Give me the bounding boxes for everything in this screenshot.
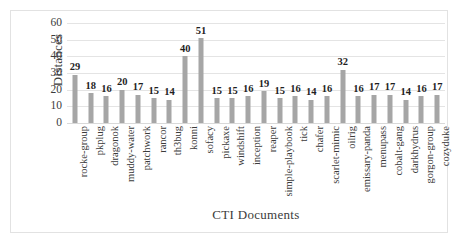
x-label-slot: darkhydrus [398, 124, 414, 204]
bar[interactable] [198, 38, 203, 123]
bar[interactable] [419, 96, 424, 123]
bar-slot: 15 [272, 23, 288, 123]
bar-value-label: 14 [400, 87, 411, 98]
x-label-slot: th3bug [162, 124, 178, 204]
bar-slot: 17 [130, 23, 146, 123]
bar-value-label: 51 [196, 26, 207, 37]
bar[interactable] [183, 56, 188, 123]
bar-value-label: 18 [85, 81, 96, 92]
bars-group: 2918162017151440511515161915161416321617… [67, 23, 445, 123]
x-label-slot: rancor [146, 124, 162, 204]
bar-value-label: 16 [243, 84, 254, 95]
x-label-slot: sofacy [193, 124, 209, 204]
bar-value-label: 16 [101, 84, 112, 95]
bar[interactable] [403, 100, 408, 123]
bar[interactable] [293, 96, 298, 123]
bar-slot: 14 [162, 23, 178, 123]
x-label-slot: cozyduke [429, 124, 445, 204]
x-label-slot: pkplug [83, 124, 99, 204]
bar[interactable] [214, 98, 219, 123]
bar[interactable] [120, 90, 125, 123]
x-label-slot: cobalt-gang [382, 124, 398, 204]
bar-slot: 29 [67, 23, 83, 123]
x-label-slot: inception [240, 124, 256, 204]
bar-value-label: 16 [290, 84, 301, 95]
x-label-slot: chafer [303, 124, 319, 204]
x-label-slot: konni [177, 124, 193, 204]
bar[interactable] [309, 100, 314, 123]
x-axis-title: CTI Documents [67, 207, 445, 223]
bar-value-label: 17 [133, 82, 144, 93]
bar-slot: 15 [146, 23, 162, 123]
bar-slot: 32 [335, 23, 351, 123]
bar-slot: 14 [398, 23, 414, 123]
bar[interactable] [135, 95, 140, 123]
bar-value-label: 19 [259, 79, 270, 90]
bar-slot: 15 [225, 23, 241, 123]
x-label-slot: muddy-water [114, 124, 130, 204]
chart-frame: Distances 0102030405060 2918162017151440… [10, 10, 448, 233]
bar-slot: 16 [319, 23, 335, 123]
bar[interactable] [167, 100, 172, 123]
bar-slot: 14 [303, 23, 319, 123]
x-label-slot: oilrig [335, 124, 351, 204]
bar[interactable] [151, 98, 156, 123]
bar-value-label: 15 [274, 86, 285, 97]
bar-slot: 17 [366, 23, 382, 123]
bar-slot: 16 [351, 23, 367, 123]
y-tick-label-40: 40 [51, 51, 63, 63]
x-tick-label: cozyduke [441, 126, 452, 166]
bar-value-label: 32 [337, 57, 348, 68]
plot-area: 0102030405060 29181620171514405115151619… [67, 23, 445, 123]
x-axis-tick-labels: rocke-grouppkplugdragonokmuddy-waterpatc… [67, 124, 445, 204]
bar-value-label: 15 [211, 86, 222, 97]
bar[interactable] [435, 95, 440, 123]
bar[interactable] [261, 91, 266, 123]
bar-slot: 17 [429, 23, 445, 123]
bar[interactable] [277, 98, 282, 123]
y-tick-label-50: 50 [51, 34, 63, 46]
y-axis-title-wrapper: Distances [15, 33, 35, 125]
bar-slot: 16 [414, 23, 430, 123]
bar[interactable] [340, 70, 345, 123]
x-label-slot: rocke-group [67, 124, 83, 204]
bar-value-label: 15 [227, 86, 238, 97]
bar-slot: 20 [114, 23, 130, 123]
bar-value-label: 40 [180, 44, 191, 55]
y-tick-label-60: 60 [51, 17, 63, 29]
bar-slot: 16 [240, 23, 256, 123]
x-label-slot: pickaxe [209, 124, 225, 204]
bar-slot: 16 [288, 23, 304, 123]
x-label-slot: scarlet-mimic [319, 124, 335, 204]
bar-value-label: 17 [432, 82, 443, 93]
bar-slot: 17 [382, 23, 398, 123]
y-tick-label-30: 30 [51, 67, 63, 79]
bar-value-label: 14 [164, 87, 175, 98]
bar-value-label: 20 [117, 77, 128, 88]
bar-value-label: 14 [306, 87, 317, 98]
bar[interactable] [387, 95, 392, 123]
x-label-slot: windshift [225, 124, 241, 204]
bar-slot: 40 [177, 23, 193, 123]
y-tick-label-0: 0 [56, 117, 62, 129]
bar-value-label: 15 [148, 86, 159, 97]
bar[interactable] [88, 93, 93, 123]
bar[interactable] [230, 98, 235, 123]
bar[interactable] [104, 96, 109, 123]
bar-slot: 16 [99, 23, 115, 123]
bar-slot: 15 [209, 23, 225, 123]
bar-value-label: 17 [385, 82, 396, 93]
bar-value-label: 16 [416, 84, 427, 95]
x-label-slot: dragonok [99, 124, 115, 204]
x-label-slot: reaper [256, 124, 272, 204]
bar[interactable] [324, 96, 329, 123]
bar-value-label: 16 [353, 84, 364, 95]
bar[interactable] [246, 96, 251, 123]
bar[interactable] [356, 96, 361, 123]
x-label-slot: tick [288, 124, 304, 204]
bar[interactable] [72, 75, 77, 123]
x-label-slot: patchwork [130, 124, 146, 204]
bar-chart-figure: Distances 0102030405060 2918162017151440… [0, 0, 462, 245]
bar[interactable] [372, 95, 377, 123]
x-label-slot: gorgon-group [414, 124, 430, 204]
